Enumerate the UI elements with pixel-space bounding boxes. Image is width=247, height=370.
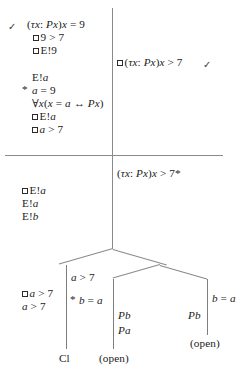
label-mb2: Pa [118, 325, 131, 336]
label-rb1: Pb [188, 310, 201, 321]
formula-tl5: a = 9 [32, 85, 56, 96]
label-lb1: a > 7 [22, 288, 53, 299]
box-icon [33, 48, 39, 54]
tree-branch-left-arm [59, 248, 113, 264]
formula-br1: (τx: Px)x > 7* [117, 168, 181, 179]
formula-tl3: E!9 [33, 45, 57, 56]
formula-bl3: E!b [22, 211, 38, 222]
tree-subbranch-right-arm [160, 265, 207, 279]
branch-stem-middle [113, 279, 114, 349]
formula-tl7: E!a [32, 111, 56, 122]
terminal-right: (open) [190, 338, 220, 349]
checkmark-tl1: ✓ [8, 22, 16, 32]
formula-tl4: E!a [32, 72, 48, 83]
tableau-figure: ✓ (τx: Px)x = 9 9 > 7 E!9 E!a * a = 9 ∀x… [0, 0, 247, 370]
label-lb2: a > 7 [22, 301, 46, 312]
label-lb4: b = a [79, 295, 103, 306]
star-marker-lb4: * [70, 294, 76, 305]
terminal-middle: (open) [99, 353, 129, 364]
box-icon [22, 291, 28, 297]
formula-tr1: (τx: Px)x > 7 [117, 57, 183, 68]
branch-stem-left [66, 265, 67, 349]
vertical-divider [112, 8, 113, 235]
label-mb1: Pb [118, 310, 131, 321]
horizontal-divider [5, 155, 223, 156]
formula-tl8: a > 7 [32, 124, 63, 135]
box-icon [32, 127, 38, 133]
formula-tl1: (τx: Px)x = 9 [27, 19, 85, 30]
box-icon [117, 60, 123, 66]
tree-branch-right-arm [112, 249, 166, 265]
formula-tl2: 9 > 7 [33, 32, 64, 43]
tree-subbranch-left-arm [113, 264, 160, 278]
formula-tl6: ∀x(x = a ↔ Px) [32, 98, 104, 109]
star-marker-tl5: * [22, 84, 28, 95]
branch-stem-right [207, 279, 208, 335]
box-icon [22, 188, 28, 194]
formula-bl1: E!a [22, 185, 46, 196]
box-icon [32, 114, 38, 120]
label-lb3: a > 7 [71, 272, 95, 283]
terminal-left: Cl [59, 353, 70, 364]
formula-bl2: E!a [22, 198, 38, 209]
box-icon [33, 35, 39, 41]
checkmark-tr1: ✓ [203, 60, 211, 70]
label-rb2: b = a [212, 293, 236, 304]
